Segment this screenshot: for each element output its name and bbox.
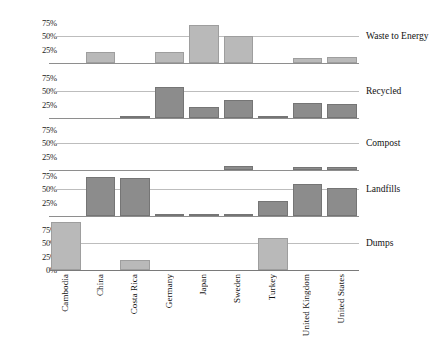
gridline-50: [49, 143, 359, 144]
gridline-75: [49, 230, 359, 231]
x-axis-line: [49, 270, 359, 271]
bar-sweden[interactable]: [224, 36, 254, 63]
gridline-25: [49, 157, 359, 158]
gridline-50: [49, 243, 359, 244]
bar-turkey[interactable]: [258, 238, 288, 270]
gridline-75: [49, 23, 359, 24]
gridline-75: [49, 78, 359, 79]
x-axis-label-germany: Germany: [165, 274, 174, 308]
x-axis-label-turkey: Turkey: [268, 274, 277, 300]
panel-label-landfills: Landfills: [366, 184, 400, 194]
bar-japan[interactable]: [189, 25, 219, 63]
x-axis-label-japan: Japan: [199, 274, 208, 295]
bar-germany[interactable]: [155, 52, 185, 63]
bar-united-states[interactable]: [327, 188, 357, 216]
panel-plot-area: [49, 216, 359, 270]
x-axis-label-cambodia: Cambodia: [61, 274, 70, 312]
bar-china[interactable]: [86, 177, 116, 216]
bar-united-kingdom[interactable]: [293, 184, 323, 216]
panel-label-recycled: Recycled: [366, 86, 401, 96]
bar-turkey[interactable]: [258, 201, 288, 216]
panel-plot-area: [49, 64, 359, 118]
bar-united-states[interactable]: [327, 57, 357, 63]
small-multiples-bar-chart: 75%50%25%Waste to Energy75%50%25%Recycle…: [0, 0, 439, 356]
bar-costa-rica[interactable]: [120, 260, 150, 270]
bar-costa-rica[interactable]: [120, 178, 150, 216]
panel-label-waste-to-energy: Waste to Energy: [366, 31, 428, 41]
bar-united-kingdom[interactable]: [293, 58, 323, 63]
bar-germany[interactable]: [155, 87, 185, 118]
x-axis-label-costa-rica: Costa Rica: [130, 274, 139, 314]
gridline-50: [49, 91, 359, 92]
x-axis-label-united-kingdom: United Kingdom: [302, 274, 311, 336]
panel-label-compost: Compost: [366, 138, 400, 148]
gridline-25: [49, 257, 359, 258]
x-axis-label-united-states: United States: [337, 274, 346, 324]
x-axis-label-sweden: Sweden: [233, 274, 242, 303]
bar-china[interactable]: [86, 52, 116, 63]
gridline-75: [49, 130, 359, 131]
x-axis-label-china: China: [96, 274, 105, 296]
bar-cambodia[interactable]: [51, 222, 81, 270]
panel-label-dumps: Dumps: [366, 238, 393, 248]
panel-plot-area: [49, 9, 359, 63]
panel-plot-area: [49, 162, 359, 216]
